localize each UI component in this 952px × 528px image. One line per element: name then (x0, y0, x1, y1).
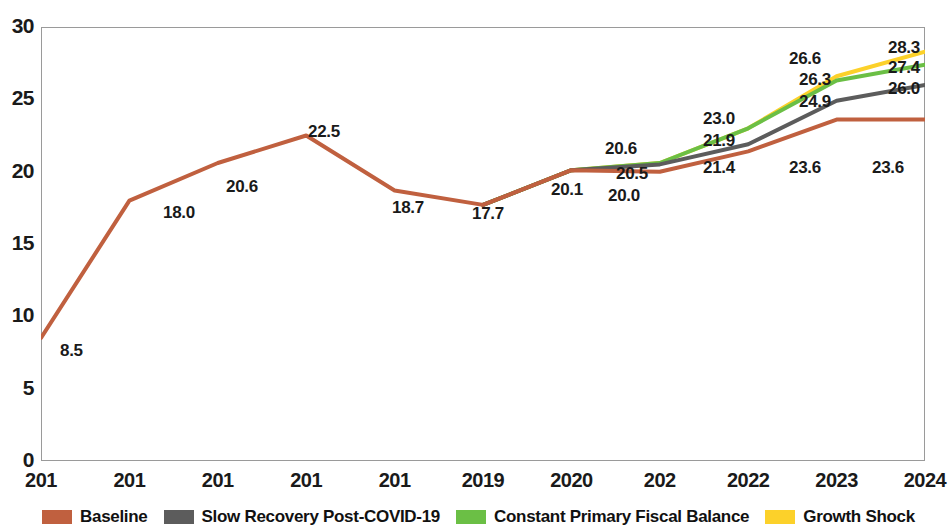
x-axis-tick-label: 201 (357, 469, 433, 492)
data-point-label: 8.5 (60, 341, 83, 361)
data-point-label: 21.4 (703, 158, 735, 178)
legend-swatch-icon (456, 510, 486, 524)
data-point-label: 23.6 (789, 158, 821, 178)
legend-swatch-icon (765, 510, 795, 524)
data-point-label: 20.1 (551, 180, 583, 200)
y-axis-tick-label: 15 (0, 231, 34, 255)
legend-item-label: Constant Primary Fiscal Balance (494, 507, 749, 527)
x-axis-tick-label: 201 (268, 469, 344, 492)
y-axis-tick-label: 20 (0, 159, 34, 183)
data-point-label: 18.0 (163, 203, 195, 223)
x-axis-tick-label: 2023 (799, 469, 875, 492)
x-axis-tick-label: 201 (91, 469, 167, 492)
data-point-label: 26.3 (799, 70, 831, 90)
data-point-label: 23.6 (872, 158, 904, 178)
legend-item[interactable]: Growth Shock (765, 507, 915, 527)
legend-item-label: Slow Recovery Post-COVID-19 (202, 507, 440, 527)
legend-item[interactable]: Constant Primary Fiscal Balance (456, 507, 749, 527)
x-axis-tick-label: 201 (3, 469, 79, 492)
data-point-label: 26.0 (888, 79, 920, 99)
data-point-label: 21.9 (703, 131, 735, 151)
legend-item-label: Growth Shock (803, 507, 915, 527)
data-point-label: 20.5 (616, 164, 648, 184)
data-point-label: 18.7 (392, 198, 424, 218)
y-axis-tick-label: 10 (0, 303, 34, 327)
x-axis-tick-label: 2020 (533, 469, 609, 492)
data-point-label: 17.7 (472, 204, 504, 224)
data-point-label: 20.0 (608, 186, 640, 206)
y-axis-tick-label: 30 (0, 14, 34, 38)
legend-item-label: Baseline (80, 507, 148, 527)
legend-swatch-icon (164, 510, 194, 524)
y-axis-tick-label: 5 (0, 376, 34, 400)
data-point-label: 23.0 (703, 109, 735, 129)
x-axis-tick-label: 2024 (887, 469, 952, 492)
x-axis-tick-label: 201 (180, 469, 256, 492)
legend-item[interactable]: Baseline (42, 507, 148, 527)
x-axis-tick-label: 202 (622, 469, 698, 492)
legend-swatch-icon (42, 510, 72, 524)
chart-lines (41, 27, 925, 461)
data-point-label: 20.6 (605, 139, 637, 159)
x-axis-tick-label: 2019 (445, 469, 521, 492)
data-point-label: 28.3 (888, 38, 920, 58)
data-point-label: 20.6 (226, 177, 258, 197)
data-point-label: 26.6 (789, 49, 821, 69)
y-axis-tick-label: 25 (0, 86, 34, 110)
chart-legend: BaselineSlow Recovery Post-COVID-19Const… (0, 505, 933, 528)
data-point-label: 22.5 (308, 122, 340, 142)
series-line (41, 120, 925, 338)
data-point-label: 27.4 (888, 58, 920, 78)
legend-item[interactable]: Slow Recovery Post-COVID-19 (164, 507, 440, 527)
x-axis-tick-label: 2022 (710, 469, 786, 492)
data-point-label: 24.9 (799, 92, 831, 112)
